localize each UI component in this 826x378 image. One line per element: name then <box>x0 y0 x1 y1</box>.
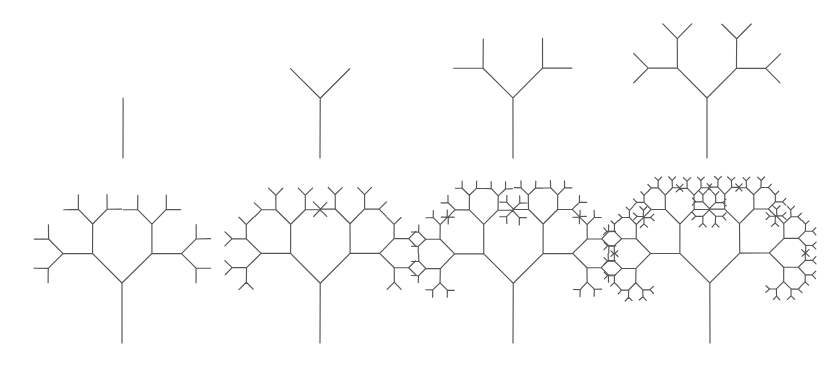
fractal-tree-strokes-depth-6 <box>225 187 416 343</box>
fractal-tree-canvas <box>0 0 826 378</box>
fractal-tree-strokes-depth-4 <box>634 24 781 158</box>
fractal-tree-panel-4 <box>634 24 781 158</box>
fractal-tree-figure <box>0 0 826 378</box>
fractal-tree-strokes-depth-8 <box>603 176 816 343</box>
fractal-tree-panel-7 <box>411 181 616 343</box>
fractal-tree-strokes-depth-3 <box>454 38 572 158</box>
fractal-tree-panel-2 <box>290 69 349 158</box>
fractal-tree-panel-6 <box>225 187 416 343</box>
fractal-tree-strokes-depth-2 <box>290 69 349 158</box>
fractal-tree-strokes-depth-5 <box>34 195 211 343</box>
fractal-tree-strokes-depth-7 <box>411 181 616 343</box>
fractal-tree-panel-3 <box>454 38 572 158</box>
fractal-tree-panel-5 <box>34 195 211 343</box>
fractal-tree-panel-8 <box>603 176 816 343</box>
